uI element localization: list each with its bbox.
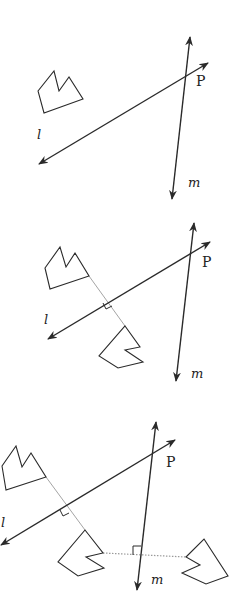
line-m (137, 422, 156, 590)
panel-3 (1, 422, 228, 590)
panel-2-label-l: l (44, 313, 48, 326)
original-figure (2, 446, 46, 490)
original-figure (45, 247, 89, 289)
diagram-canvas (0, 0, 237, 614)
panel-2 (45, 223, 210, 381)
panel-1-label-p: P (196, 74, 205, 88)
diagram-stage: l m P l m P l m P (0, 0, 237, 614)
perpendicular-to-m-line (103, 553, 186, 557)
perpendicular-to-l-line (89, 276, 125, 326)
reflection-across-l (99, 326, 143, 368)
panel-3-label-m: m (151, 573, 163, 586)
panel-1 (38, 37, 208, 199)
panel-1-label-m: m (188, 176, 200, 189)
panel-3-label-l: l (1, 516, 5, 529)
line-m (176, 223, 194, 381)
line-l (39, 63, 208, 164)
line-l (1, 440, 175, 545)
original-figure (38, 71, 83, 113)
panel-2-label-m: m (191, 367, 203, 380)
panel-1-label-l: l (37, 128, 41, 141)
perpendicular-to-l-line (46, 477, 85, 530)
right-angle-marker (133, 546, 141, 555)
right-angle-marker (60, 510, 69, 516)
reflection-across-l (58, 530, 104, 576)
reflection-across-m (182, 539, 228, 584)
panel-2-label-p: P (202, 255, 211, 269)
panel-3-label-p: P (166, 455, 175, 469)
